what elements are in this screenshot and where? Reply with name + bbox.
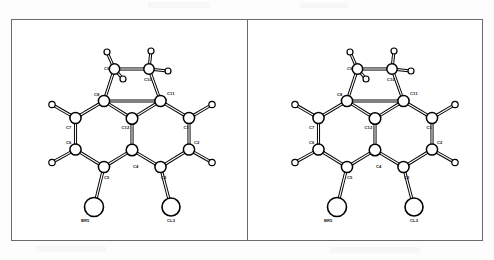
atom-label-C6: C6	[309, 140, 315, 145]
atom-C6	[70, 144, 81, 155]
atom-label-C7: C7	[309, 125, 315, 130]
atom-C5	[98, 161, 109, 172]
atom-label-C12: C12	[365, 125, 373, 130]
atom-hydrogen	[452, 159, 458, 165]
figure-root: C9C10C8C11C12C7C1C6C2C5C4C3BR5CL3 C9C10C…	[0, 0, 494, 260]
atom-label-CL3: CL3	[167, 218, 176, 223]
atom-hydrogen	[391, 48, 397, 54]
atom-C12	[126, 113, 138, 125]
atom-C12	[369, 113, 381, 125]
stereo-panel-left: C9C10C8C11C12C7C1C6C2C5C4C3BR5CL3	[11, 19, 247, 241]
atom-C3	[398, 161, 409, 172]
atom-label-C9: C9	[347, 66, 353, 71]
atom-C9	[352, 64, 362, 74]
atom-label-C5: C5	[347, 175, 353, 180]
atom-label-C7: C7	[66, 125, 72, 130]
atom-label-C2: C2	[437, 140, 443, 145]
atom-C1	[426, 112, 437, 123]
atom-BR5	[328, 198, 347, 217]
atom-label-C5: C5	[104, 175, 110, 180]
atom-label-C10: C10	[144, 77, 152, 82]
atom-hydrogen	[363, 76, 369, 82]
atom-label-C12: C12	[122, 125, 130, 130]
atom-C11	[155, 95, 166, 106]
atom-BR5	[85, 198, 104, 217]
atom-label-C1: C1	[184, 125, 190, 130]
atom-CL3	[162, 198, 180, 216]
atom-C7	[313, 112, 324, 123]
atom-C11	[398, 95, 409, 106]
atom-hydrogen	[347, 49, 353, 55]
atom-C8	[341, 95, 352, 106]
atom-label-C10: C10	[387, 77, 395, 82]
atom-C9	[109, 64, 119, 74]
molecule-diagram-right: C9C10C8C11C12C7C1C6C2C5C4C3BR5CL3	[248, 19, 484, 241]
atom-hydrogen	[49, 159, 55, 165]
atom-C10	[387, 64, 397, 74]
atom-hydrogen	[209, 101, 215, 107]
atom-hydrogen	[292, 101, 298, 107]
atom-hydrogen	[120, 76, 126, 82]
atom-label-C9: C9	[104, 66, 110, 71]
atom-C1	[183, 112, 194, 123]
atom-C3	[155, 161, 166, 172]
atom-label-BR5: BR5	[324, 218, 333, 223]
atom-label-C11: C11	[167, 91, 175, 96]
atom-label-C8: C8	[337, 92, 343, 97]
atom-hydrogen	[104, 49, 110, 55]
atom-C2	[183, 144, 194, 155]
atom-label-C3: C3	[161, 175, 167, 180]
atom-C4	[369, 144, 381, 156]
atom-C10	[144, 64, 154, 74]
atom-C5	[341, 161, 352, 172]
atom-label-C4: C4	[133, 164, 139, 169]
atom-hydrogen	[292, 159, 298, 165]
atom-C2	[426, 144, 437, 155]
atom-hydrogen	[165, 68, 171, 74]
molecule-diagram-left: C9C10C8C11C12C7C1C6C2C5C4C3BR5CL3	[11, 19, 247, 241]
atom-C8	[98, 95, 109, 106]
atom-label-CL3: CL3	[410, 218, 419, 223]
atom-hydrogen	[209, 159, 215, 165]
atom-label-C2: C2	[194, 140, 200, 145]
atom-label-C3: C3	[404, 175, 410, 180]
atom-label-C4: C4	[376, 164, 382, 169]
atom-hydrogen	[452, 101, 458, 107]
atom-label-BR5: BR5	[81, 218, 90, 223]
atom-label-C1: C1	[427, 125, 433, 130]
atom-hydrogen	[148, 48, 154, 54]
atom-label-C6: C6	[66, 140, 72, 145]
stereo-panel-right: C9C10C8C11C12C7C1C6C2C5C4C3BR5CL3	[248, 19, 484, 241]
atom-hydrogen	[408, 68, 414, 74]
atom-label-C11: C11	[410, 91, 418, 96]
atom-C7	[70, 112, 81, 123]
atom-label-C8: C8	[94, 92, 100, 97]
atom-C6	[313, 144, 324, 155]
atom-C4	[126, 144, 138, 156]
atom-CL3	[405, 198, 423, 216]
atom-hydrogen	[49, 101, 55, 107]
